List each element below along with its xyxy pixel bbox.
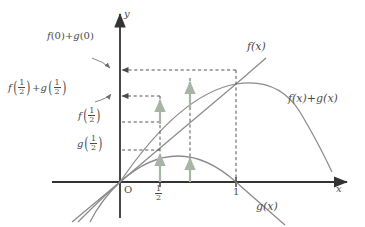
vl1-den1: 2: [18, 87, 25, 96]
fraction-denominator: 2: [155, 193, 162, 202]
dashed-value-lines: [122, 70, 236, 150]
vl1-f: f: [8, 82, 12, 93]
fraction-numerator: 1: [155, 185, 162, 193]
vl1-frac2: 1 2: [54, 79, 61, 97]
vl2-den: 2: [88, 115, 95, 124]
x-tick-label-one: 1: [233, 186, 239, 197]
x-tick-label-half: 1 2: [155, 186, 162, 204]
curve-label-sum: f(x)+g(x): [288, 92, 338, 105]
vl3-close: ): [98, 136, 102, 151]
origin-label: O: [124, 184, 132, 195]
value-label-sum-at-half: f( 1 2 )+g( 1 2 ): [8, 80, 67, 98]
vl2-frac: 1 2: [88, 107, 95, 125]
curve-label-f: f(x): [247, 40, 266, 53]
leader-sum-at-half: [95, 94, 111, 102]
vl3-frac: 1 2: [90, 135, 97, 153]
sum-label-f: f(x): [288, 92, 307, 105]
vl2-num: 1: [88, 107, 95, 115]
vl1-num2: 1: [54, 79, 61, 87]
value-label-sum-at-zero: f(0)+g(0): [47, 30, 94, 41]
vl2-open: (: [83, 108, 87, 123]
vl0-close2: ): [90, 30, 94, 41]
vl1-frac1: 1 2: [18, 79, 25, 97]
value-label-g-at-half: g( 1 2 ): [77, 136, 104, 154]
vl3-open: (: [85, 136, 89, 151]
leader-lines: [92, 58, 111, 102]
sum-label-plus: +: [307, 92, 316, 105]
vl1-num1: 1: [18, 79, 25, 87]
curve-sum-tail: [90, 182, 120, 222]
figure-root: y x O 1 2 1 f(x) f(x)+g(x) g(x) f(0)+g(0…: [0, 0, 365, 227]
vl1-close1: ): [27, 80, 31, 95]
leader-sum-at-zero: [92, 58, 110, 68]
x-axis-label: x: [336, 183, 342, 194]
vl3-num: 1: [90, 135, 97, 143]
curves-group: [72, 58, 332, 225]
curve-label-g: g(x): [256, 200, 278, 213]
offset-arrows-group: [160, 82, 190, 182]
vl1-open2: (: [48, 80, 52, 95]
vl2-close: ): [97, 108, 101, 123]
vl1-g: g: [40, 82, 46, 93]
vl3-g: g: [77, 138, 83, 149]
curve-g: [120, 156, 285, 225]
y-axis-label: y: [124, 8, 130, 19]
vl1-close2: ): [62, 80, 66, 95]
vl3-den: 2: [90, 143, 97, 152]
sum-label-g: g(x): [316, 92, 338, 105]
value-label-f-at-half: f( 1 2 ): [78, 108, 102, 126]
vl2-f: f: [78, 110, 82, 121]
fraction-one-half: 1 2: [155, 185, 162, 203]
vl1-den2: 2: [54, 87, 61, 96]
vl1-open1: (: [13, 80, 17, 95]
